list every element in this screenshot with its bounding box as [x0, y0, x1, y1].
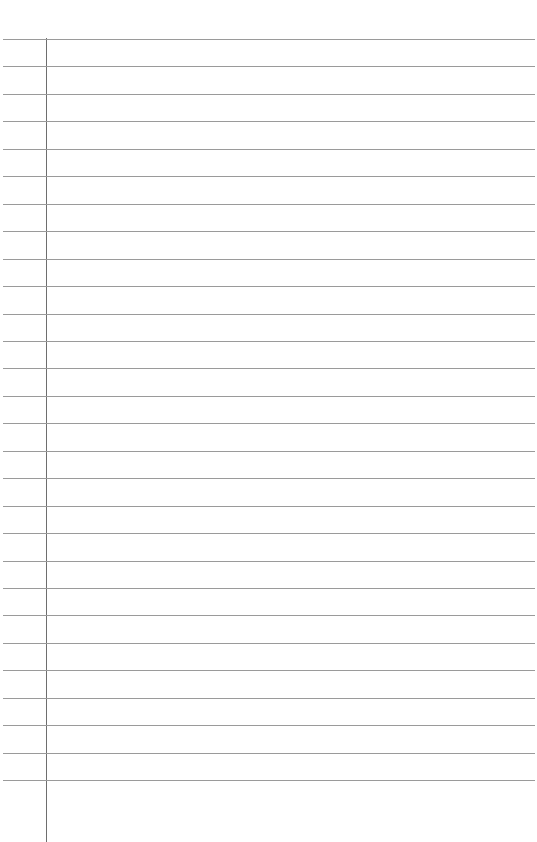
ruled-line	[3, 286, 535, 287]
ruled-line	[3, 533, 535, 534]
ruled-line	[3, 341, 535, 342]
ruled-line	[3, 615, 535, 616]
ruled-line	[3, 780, 535, 781]
ruled-line	[3, 121, 535, 122]
ruled-line	[3, 423, 535, 424]
ruled-line	[3, 368, 535, 369]
ruled-line	[3, 231, 535, 232]
ruled-line	[3, 588, 535, 589]
ruled-line	[3, 314, 535, 315]
ruled-line	[3, 176, 535, 177]
lined-paper-page	[0, 0, 537, 842]
margin-line	[46, 38, 47, 842]
ruled-line	[3, 396, 535, 397]
ruled-line	[3, 506, 535, 507]
ruled-line	[3, 698, 535, 699]
ruled-line	[3, 753, 535, 754]
ruled-line	[3, 149, 535, 150]
ruled-line	[3, 643, 535, 644]
ruled-line	[3, 204, 535, 205]
ruled-line	[3, 39, 535, 40]
ruled-line	[3, 451, 535, 452]
ruled-line	[3, 66, 535, 67]
ruled-line	[3, 94, 535, 95]
ruled-line	[3, 259, 535, 260]
ruled-line	[3, 561, 535, 562]
ruled-line	[3, 725, 535, 726]
ruled-line	[3, 670, 535, 671]
ruled-line	[3, 478, 535, 479]
